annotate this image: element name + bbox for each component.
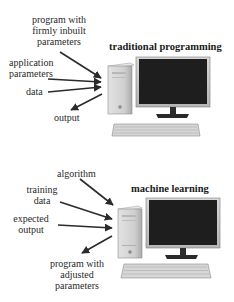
input-label-algorithm: algorithm bbox=[57, 168, 96, 179]
desktop-computer-icon bbox=[118, 198, 220, 278]
input-label-expected-output: expected output bbox=[10, 213, 52, 235]
arrow-data-in bbox=[48, 87, 101, 92]
section-title-ml: machine learning bbox=[131, 183, 209, 194]
ml-arrows bbox=[58, 179, 113, 253]
output-label-program-adjusted: program with adjusted parameters bbox=[46, 258, 108, 291]
arrow-program-in bbox=[60, 52, 101, 78]
output-label-output: output bbox=[54, 112, 80, 123]
arrow-expected-output-in bbox=[58, 225, 112, 228]
section-title-traditional: traditional programming bbox=[109, 41, 222, 52]
arrow-algorithm-in bbox=[80, 179, 113, 205]
input-label-program: program with firmly inbuilt parameters bbox=[27, 14, 91, 47]
arrow-training-data-in bbox=[60, 202, 112, 219]
input-label-training-data: training data bbox=[22, 184, 62, 206]
traditional-arrows bbox=[48, 52, 102, 110]
arrow-output-out bbox=[71, 94, 102, 110]
desktop-computer-icon bbox=[108, 57, 210, 136]
input-label-app-params: application parameters bbox=[9, 57, 53, 79]
arrow-app-params-in bbox=[48, 79, 101, 82]
input-label-data: data bbox=[26, 86, 43, 97]
arrow-program-out bbox=[82, 236, 112, 253]
